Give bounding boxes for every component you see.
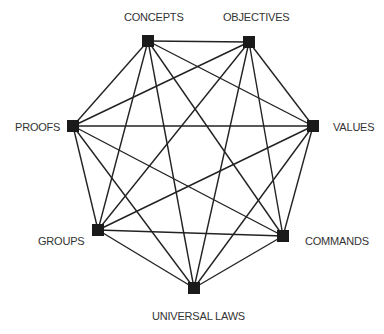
edge-commands-proofs: [73, 126, 283, 236]
edge-concepts-objectives: [148, 41, 249, 42]
node-label-groups: GROUPS: [38, 235, 84, 247]
complete-graph-diagram: [0, 0, 384, 334]
node-label-values: VALUES: [333, 121, 374, 133]
edge-universal-laws-proofs: [73, 126, 194, 288]
node-values: [307, 120, 319, 132]
node-proofs: [67, 120, 79, 132]
node-label-objectives: OBJECTIVES: [223, 11, 289, 23]
node-label-universal-laws: UNIVERSAL LAWS: [152, 310, 245, 322]
edge-objectives-groups: [98, 42, 249, 230]
node-label-commands: COMMANDS: [305, 235, 369, 247]
edge-concepts-values: [148, 41, 313, 126]
edge-universal-laws-groups: [98, 230, 194, 288]
edge-commands-universal-laws: [194, 236, 283, 288]
node-objectives: [243, 36, 255, 48]
nodes-group: [67, 35, 319, 294]
node-label-proofs: PROOFS: [15, 121, 60, 133]
node-concepts: [142, 35, 154, 47]
node-groups: [92, 224, 104, 236]
edge-objectives-values: [249, 42, 313, 126]
node-label-concepts: CONCEPTS: [124, 11, 184, 23]
edges-group: [73, 41, 313, 288]
edge-commands-groups: [98, 230, 283, 236]
node-commands: [277, 230, 289, 242]
edge-concepts-universal-laws: [148, 41, 194, 288]
edge-concepts-commands: [148, 41, 283, 236]
edge-values-groups: [98, 126, 313, 230]
edge-values-commands: [283, 126, 313, 236]
node-universal-laws: [188, 282, 200, 294]
